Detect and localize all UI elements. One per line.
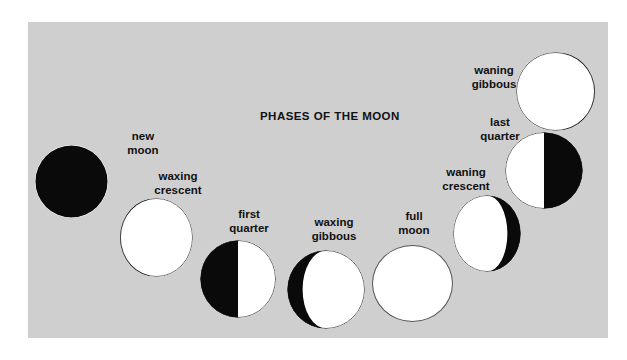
moon-disc-first-quarter <box>200 240 276 318</box>
waxing-crescent-shape <box>120 198 193 277</box>
moon-disc-last-quarter <box>505 132 583 209</box>
label-waning-gibbous: waning gibbous <box>452 64 536 91</box>
moon-disc-full-moon <box>372 245 453 322</box>
label-waxing-gibbous: waxing gibbous <box>296 216 372 243</box>
last-quarter-shape <box>505 132 583 209</box>
moon-phases-figure: PHASES OF THE MOON new moon waxing cresc… <box>0 0 627 360</box>
waning-crescent-shape <box>453 195 521 272</box>
label-last-quarter: last quarter <box>464 116 536 143</box>
waxing-gibbous-shape <box>287 250 365 329</box>
moon-disc-waning-crescent <box>453 195 521 272</box>
moon-disc-new-moon <box>35 145 108 218</box>
moon-disc-waxing-crescent <box>120 198 193 277</box>
label-waning-crescent: waning crescent <box>424 166 508 193</box>
page-title: PHASES OF THE MOON <box>260 110 400 122</box>
label-full-moon: full moon <box>384 210 444 237</box>
label-first-quarter: first quarter <box>214 208 284 235</box>
label-waxing-crescent: waxing crescent <box>140 170 216 197</box>
moon-disc-waxing-gibbous <box>287 250 365 329</box>
label-new-moon: new moon <box>112 130 174 157</box>
figure-panel: PHASES OF THE MOON new moon waxing cresc… <box>28 22 608 338</box>
new-moon-shape <box>35 145 108 218</box>
first-quarter-shape <box>200 240 276 318</box>
